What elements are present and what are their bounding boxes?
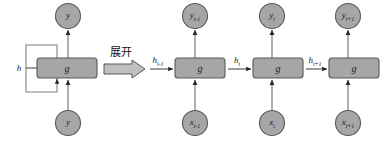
unfolded-input-node-step-1 bbox=[183, 111, 208, 136]
unfolded-output-node-step-1 bbox=[183, 4, 208, 29]
unfold-transition-group bbox=[104, 60, 145, 78]
unfolded-output-node-step-2 bbox=[260, 4, 285, 29]
folded-cell-box bbox=[37, 58, 97, 78]
folded-input-node bbox=[56, 111, 81, 136]
folded-rnn-group bbox=[26, 4, 97, 136]
block-arrow-right-icon bbox=[104, 60, 145, 78]
unfolded-cell-box-step-3 bbox=[329, 58, 379, 78]
rnn-unfold-diagram bbox=[0, 0, 386, 141]
unfolded-cell-box-step-2 bbox=[253, 58, 303, 78]
unfolded-cell-box-step-1 bbox=[175, 58, 225, 78]
folded-output-node bbox=[56, 4, 81, 29]
unfolded-input-node-step-3 bbox=[336, 111, 361, 136]
unfolded-input-node-step-2 bbox=[260, 111, 285, 136]
unfolded-output-node-step-3 bbox=[336, 4, 361, 29]
unfolded-rnn-group bbox=[150, 4, 379, 136]
